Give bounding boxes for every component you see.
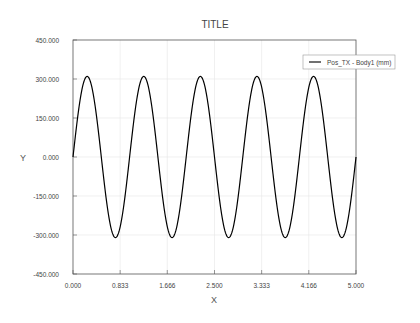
x-tick-label: 5.000 — [348, 282, 365, 289]
chart: TITLE 450.000300.000150.0000.000-150.000… — [0, 0, 420, 323]
y-tick-label: -300.000 — [33, 232, 59, 239]
x-tick-label: 3.333 — [254, 282, 271, 289]
legend: Pos_TX - Body1 (mm) — [303, 55, 395, 69]
y-tick-label: 150.000 — [36, 115, 60, 122]
y-tick-label: -450.000 — [33, 271, 59, 278]
x-axis-ticks: 0.0000.8331.6662.5003.3334.1665.000 — [65, 270, 365, 289]
x-tick-label: 0.000 — [65, 282, 82, 289]
x-tick-label: 1.666 — [159, 282, 176, 289]
x-tick-label: 2.500 — [206, 282, 223, 289]
x-tick-label: 0.833 — [112, 282, 129, 289]
y-axis-label: Y — [20, 153, 26, 163]
chart-title: TITLE — [201, 19, 229, 30]
y-axis-ticks: 450.000300.000150.0000.000-150.000-300.0… — [33, 37, 77, 278]
x-axis-label: X — [211, 295, 217, 305]
y-tick-label: -150.000 — [33, 193, 59, 200]
y-tick-label: 450.000 — [36, 37, 60, 44]
x-tick-label: 4.166 — [301, 282, 318, 289]
legend-label: Pos_TX - Body1 (mm) — [327, 59, 391, 67]
y-tick-label: 300.000 — [36, 76, 60, 83]
y-tick-label: 0.000 — [43, 154, 60, 161]
